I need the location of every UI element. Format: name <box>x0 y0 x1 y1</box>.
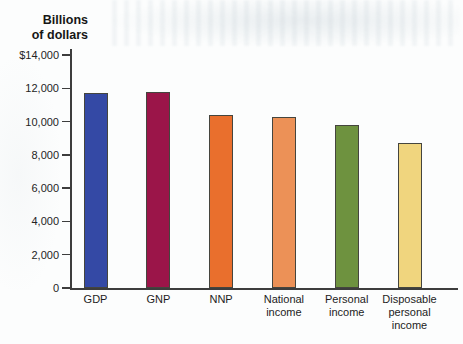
y-axis-tick-label: 0 <box>0 283 59 294</box>
y-axis-tick-label: 12,000 <box>0 83 59 94</box>
y-axis-tick <box>62 121 71 122</box>
x-axis-line <box>70 288 458 290</box>
y-axis-tick-label: 4,000 <box>0 216 59 227</box>
y-axis-tick <box>62 221 71 222</box>
y-axis-tick <box>62 187 71 188</box>
category-label-disposable-personal-income: Disposable personal income <box>368 293 452 332</box>
y-axis-tick-label: 2,000 <box>0 249 59 260</box>
bar-gdp <box>84 93 108 288</box>
y-axis-title: Billions of dollars <box>0 13 88 43</box>
y-axis-tick <box>62 88 71 89</box>
bar-personal-income <box>335 125 359 288</box>
y-axis-line <box>70 49 72 289</box>
y-axis-tick <box>62 54 71 55</box>
bar-nnp <box>209 115 233 288</box>
bar-gnp <box>146 92 170 288</box>
y-axis-tick-label: 6,000 <box>0 183 59 194</box>
y-axis-tick-label: 10,000 <box>0 116 59 127</box>
y-axis-tick-label: 8,000 <box>0 149 59 160</box>
bar-national-income <box>272 117 296 288</box>
y-axis-tick <box>62 154 71 155</box>
scanned-bar-chart-page: Billions of dollars 02,0004,0006,0008,00… <box>0 0 463 344</box>
y-axis-tick <box>62 287 71 288</box>
scan-bleed-artifact <box>112 0 460 46</box>
bar-disposable-personal-income <box>398 143 422 288</box>
y-axis-tick <box>62 254 71 255</box>
y-axis-tick-label: $14,000 <box>0 50 59 61</box>
